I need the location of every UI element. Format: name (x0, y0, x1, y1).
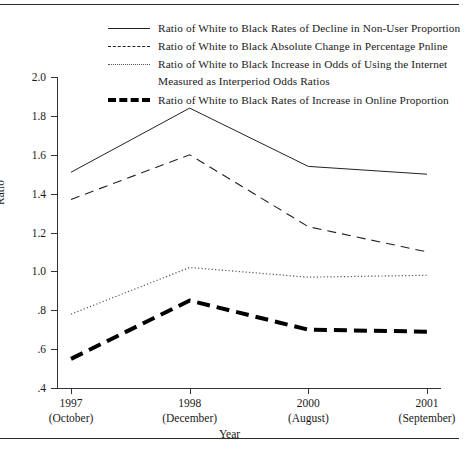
series-line-2 (71, 267, 427, 314)
series-line-1 (71, 155, 427, 252)
series-line-0 (71, 108, 427, 174)
series-line-3 (71, 301, 427, 359)
